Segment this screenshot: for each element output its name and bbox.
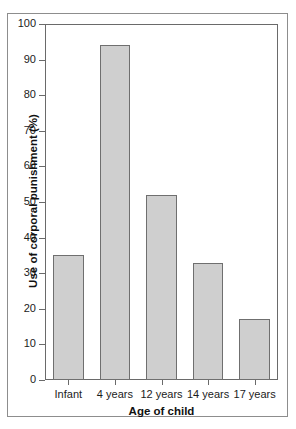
x-axis-tick-label: 12 years xyxy=(138,388,185,400)
x-axis-tick xyxy=(255,380,256,385)
x-axis-tick xyxy=(68,380,69,385)
x-axis-tick xyxy=(208,380,209,385)
y-axis-title: Use of corporal punishment (%) xyxy=(27,86,39,316)
figure: 0102030405060708090100 Age of child Use … xyxy=(0,0,296,429)
bar-17-years xyxy=(239,319,270,380)
bar-infant xyxy=(53,255,84,380)
y-axis-tick-label: 90 xyxy=(0,54,36,65)
x-axis-tick-label: 14 years xyxy=(185,388,232,400)
y-axis-tick xyxy=(39,380,45,381)
y-axis-tick-label: 10 xyxy=(0,338,36,349)
x-axis-tick-label: Infant xyxy=(45,388,92,400)
plot-area xyxy=(45,24,278,380)
y-axis-tick-label: 100 xyxy=(0,18,36,29)
x-axis-tick xyxy=(162,380,163,385)
y-axis-tick-label: 0 xyxy=(0,374,36,385)
x-axis-tick-label: 17 years xyxy=(231,388,278,400)
x-axis-title: Age of child xyxy=(45,405,278,417)
bar-4-years xyxy=(100,45,131,380)
x-axis-tick-label: 4 years xyxy=(92,388,139,400)
bar-14-years xyxy=(193,263,224,380)
x-axis-tick xyxy=(115,380,116,385)
bar-12-years xyxy=(146,195,177,380)
